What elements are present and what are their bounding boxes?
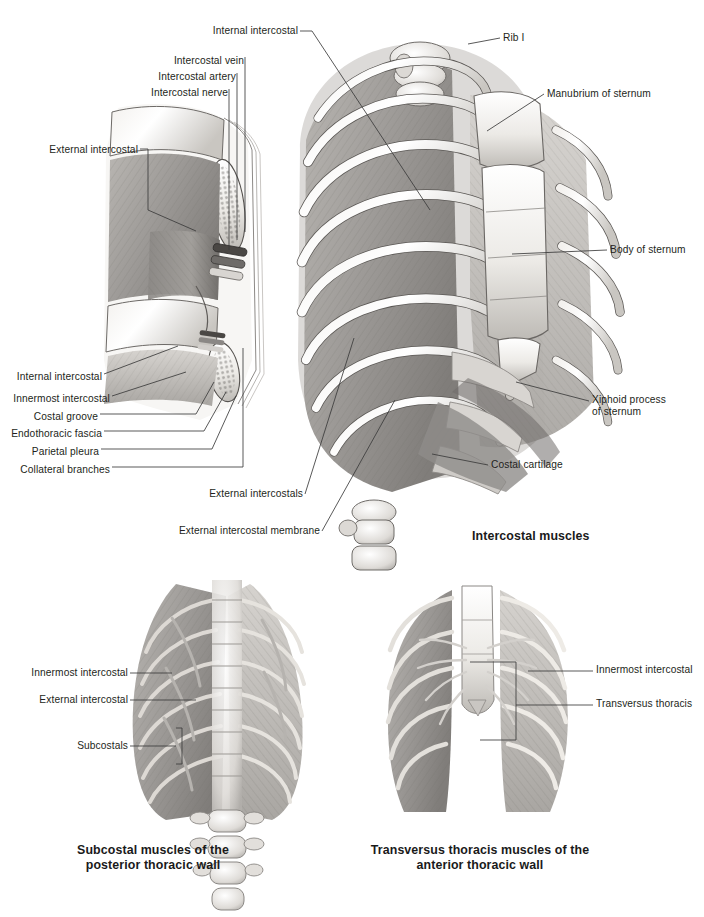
leader-external-intercostals	[305, 338, 354, 494]
label-external-intercostal-membrane: External intercostal membrane	[0, 525, 320, 537]
leader-rib-i	[468, 38, 500, 44]
leader-manubrium-of-sternum	[487, 94, 544, 131]
leader-lines	[0, 0, 704, 917]
label-innermost-intercostal-ant: Innermost intercostal	[596, 664, 693, 676]
label-parietal-pleura: Parietal pleura	[0, 446, 99, 458]
caption-subcostal-line1: Subcostal muscles of the	[36, 843, 270, 858]
label-costal-groove: Costal groove	[0, 411, 98, 423]
label-xiphoid-process: Xiphoid process	[592, 394, 666, 406]
label-innermost-intercostal-post: Innermost intercostal	[0, 667, 128, 679]
leader-external-intercostal-membrane	[322, 400, 395, 531]
caption-subcostal-line2: posterior thoracic wall	[36, 858, 270, 873]
leader-body-of-sternum	[512, 250, 607, 254]
label-xiphoid-process-line2: of sternum	[592, 406, 641, 418]
leader-internal-intercostal-main	[300, 31, 430, 210]
label-manubrium-of-sternum: Manubrium of sternum	[547, 88, 651, 100]
label-external-intercostal: External intercostal	[0, 144, 138, 156]
leader-external-intercostal	[140, 149, 196, 231]
label-internal-intercostal-main: Internal intercostal	[0, 25, 298, 37]
bracket-subcostals	[176, 728, 182, 764]
label-collateral-branches: Collateral branches	[0, 464, 110, 476]
leader-parietal-pleura	[101, 396, 236, 449]
leader-endothoracic-fascia	[104, 392, 226, 431]
label-costal-cartilage: Costal cartilage	[491, 459, 563, 471]
label-internal-intercostal-cs: Internal intercostal	[0, 371, 102, 383]
leader-internal-intercostal-cs	[104, 346, 178, 374]
label-external-intercostals: External intercostals	[0, 488, 303, 500]
label-rib-i: Rib I	[503, 32, 524, 44]
label-endothoracic-fascia: Endothoracic fascia	[0, 428, 102, 440]
label-intercostal-artery: Intercostal artery	[0, 71, 236, 83]
label-intercostal-nerve: Intercostal nerve	[0, 87, 228, 99]
label-intercostal-vein: Intercostal vein	[0, 55, 244, 67]
leader-innermost-intercostal-cs	[112, 372, 186, 396]
label-subcostals: Subcostals	[0, 740, 128, 752]
caption-transversus-line1: Transversus thoracis muscles of the	[340, 843, 620, 858]
label-innermost-intercostal-cs: Innermost intercostal	[0, 393, 110, 405]
label-body-of-sternum: Body of sternum	[610, 244, 686, 256]
label-transversus-thoracis: Transversus thoracis	[596, 698, 692, 710]
caption-intercostal-muscles: Intercostal muscles	[472, 529, 590, 544]
anatomy-plate: External intercostal Intercostal nerve I…	[0, 0, 704, 917]
leader-costal-cartilage	[432, 454, 488, 465]
caption-transversus-line2: anterior thoracic wall	[340, 858, 620, 873]
bracket-transversus-thoracis	[480, 662, 516, 740]
leader-costal-groove	[100, 382, 214, 414]
label-external-intercostal-post: External intercostal	[0, 694, 128, 706]
leader-xiphoid-process	[516, 382, 589, 401]
